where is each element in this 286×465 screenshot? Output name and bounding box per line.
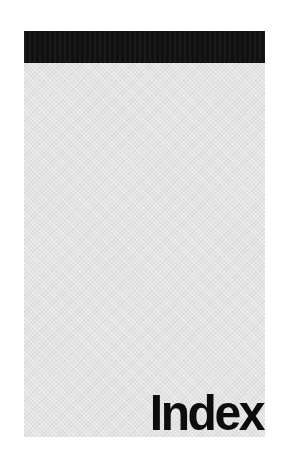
header-bar <box>24 31 265 63</box>
section-title: Index <box>150 388 263 438</box>
chapter-opener-panel: Index <box>24 31 265 437</box>
